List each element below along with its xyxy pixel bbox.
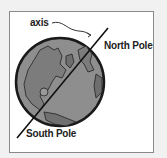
axis-label: axis — [30, 17, 49, 28]
caribbean-island — [40, 88, 48, 96]
north-pole-label: North Pole — [104, 40, 153, 51]
axis-pointer-arrow — [52, 22, 90, 35]
south-pole-label: South Pole — [26, 128, 76, 139]
